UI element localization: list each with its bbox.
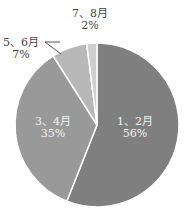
slice-label-5-6: 5、6月 7% <box>3 37 39 61</box>
slice-percent: 56% <box>117 128 153 140</box>
slice-percent: 7% <box>3 49 39 61</box>
leader-line-5-6-diag <box>45 42 61 54</box>
slice-percent: 2% <box>72 20 108 32</box>
slice-label-1-2: 1、2月 56% <box>117 116 153 140</box>
slice-label-7-8: 7、8月 2% <box>72 8 108 32</box>
slice-label-3-4: 3、4月 35% <box>35 116 71 140</box>
slice-percent: 35% <box>35 128 71 140</box>
